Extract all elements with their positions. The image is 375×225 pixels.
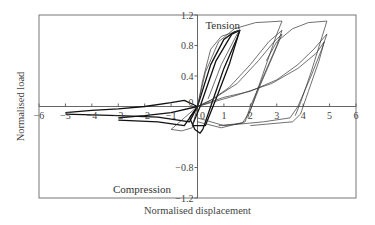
hysteresis-loop bbox=[198, 21, 283, 118]
x-tick-label: 6 bbox=[354, 110, 359, 121]
hysteresis-chart: −6−5−4−3−2−10123456−1.2−0.800.40.81.2 Te… bbox=[0, 0, 375, 225]
y-tick-label: 1.2 bbox=[181, 10, 194, 21]
y-axis-title: Normalised load bbox=[15, 71, 26, 141]
y-tick-label: 0 bbox=[189, 97, 194, 108]
x-tick-label: −5 bbox=[60, 110, 71, 121]
x-tick-label: −2 bbox=[139, 110, 150, 121]
y-tick-label: −1.2 bbox=[175, 193, 193, 204]
x-tick-label: −4 bbox=[87, 110, 98, 121]
x-tick-label: 4 bbox=[301, 110, 306, 121]
x-tick-label: 5 bbox=[327, 110, 332, 121]
x-tick-label: 3 bbox=[274, 110, 279, 121]
x-axis-title: Normalised displacement bbox=[144, 205, 251, 216]
x-tick-label: −1 bbox=[166, 110, 177, 121]
x-tick-label: −3 bbox=[113, 110, 124, 121]
y-tick-label: 0.4 bbox=[181, 71, 194, 82]
y-tick-label: 0.8 bbox=[181, 40, 194, 51]
y-tick-label: −0.8 bbox=[175, 162, 193, 173]
x-tick-label: 2 bbox=[248, 110, 253, 121]
x-tick-label: 0 bbox=[200, 110, 205, 121]
tension-annotation: Tension bbox=[205, 19, 240, 31]
data-curves bbox=[65, 21, 327, 133]
compression-annotation: Compression bbox=[113, 183, 172, 195]
x-tick-label: 1 bbox=[221, 110, 226, 121]
hysteresis-loop bbox=[266, 21, 327, 116]
x-tick-label: −6 bbox=[34, 110, 45, 121]
